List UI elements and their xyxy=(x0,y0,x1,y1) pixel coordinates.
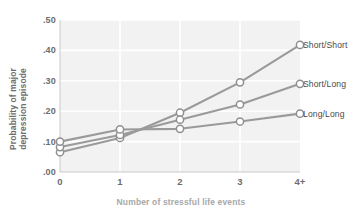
data-point xyxy=(176,109,183,116)
data-point xyxy=(236,101,243,108)
legend-label-short-long: Short/Long xyxy=(303,79,346,89)
chart-figure: Probability of major depression episode … xyxy=(0,0,361,218)
x-tick-label: 0 xyxy=(45,176,75,187)
data-point xyxy=(176,125,183,132)
legend-label-long-long: Long/Long xyxy=(303,109,345,119)
x-axis-label: Number of stressful life events xyxy=(56,197,306,207)
data-point xyxy=(56,138,63,145)
x-tick-label: 3 xyxy=(225,176,255,187)
x-tick-label: 4+ xyxy=(285,176,315,187)
x-tick-label: 1 xyxy=(105,176,135,187)
x-tick-label: 2 xyxy=(165,176,195,187)
data-point xyxy=(176,116,183,123)
data-point xyxy=(236,79,243,86)
data-point xyxy=(236,118,243,125)
data-point xyxy=(116,126,123,133)
legend-label-short-short: Short/Short xyxy=(303,40,348,50)
